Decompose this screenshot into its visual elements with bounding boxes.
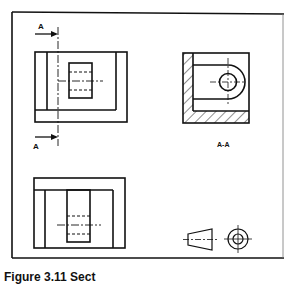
cutting-plane-label-bottom: A [33, 142, 39, 151]
section-view-label: A-A [217, 141, 229, 148]
arrow-right-icon [51, 31, 58, 37]
front-view [35, 52, 127, 122]
cutting-plane-a: A A [33, 22, 58, 151]
arrow-right-icon [51, 134, 58, 140]
projection-symbol [183, 225, 252, 253]
section-view-a-a [183, 53, 249, 123]
figure-caption: Figure 3.11 Sect [4, 270, 95, 284]
plan-view [34, 178, 125, 248]
cutting-plane-label-top: A [38, 22, 44, 31]
